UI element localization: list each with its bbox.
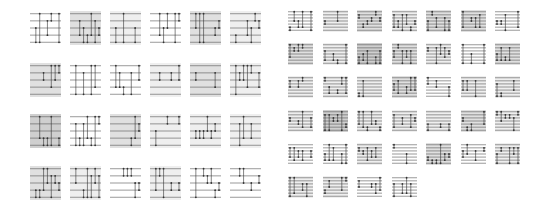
circuit-diagram-icon	[495, 110, 520, 132]
circuit-diagram-icon	[190, 11, 221, 45]
circuit-thumbnail	[461, 110, 486, 132]
circuit-diagram-icon	[230, 166, 261, 200]
circuit-diagram-icon	[392, 110, 417, 132]
circuit-thumbnail	[392, 176, 417, 198]
circuit-diagram-icon	[426, 43, 451, 65]
circuit-diagram-icon	[357, 10, 382, 32]
circuit-diagram-icon	[461, 143, 486, 165]
circuit-thumbnail	[461, 143, 486, 165]
circuit-thumbnail	[190, 166, 221, 200]
circuit-thumbnail	[323, 43, 348, 65]
circuit-diagram-icon	[110, 63, 141, 97]
circuit-thumbnail	[190, 63, 221, 97]
circuit-diagram-icon	[323, 76, 348, 98]
circuit-diagram-icon	[30, 63, 61, 97]
circuit-thumbnail	[357, 10, 382, 32]
circuit-diagram-icon	[70, 63, 101, 97]
circuit-diagram-icon	[150, 11, 181, 45]
circuit-diagram-icon	[426, 143, 451, 165]
circuit-thumbnail	[426, 110, 451, 132]
circuit-diagram-icon	[70, 114, 101, 148]
circuit-diagram-icon	[288, 176, 313, 198]
circuit-diagram-icon	[323, 110, 348, 132]
circuit-thumbnail	[495, 43, 520, 65]
circuit-thumbnail	[426, 43, 451, 65]
circuit-thumbnail	[150, 11, 181, 45]
circuit-diagram-icon	[288, 10, 313, 32]
circuit-thumbnail	[30, 11, 61, 45]
circuit-diagram-icon	[190, 166, 221, 200]
circuit-diagram-icon	[30, 11, 61, 45]
circuit-diagram-icon	[190, 114, 221, 148]
circuit-thumbnail	[110, 63, 141, 97]
circuit-thumbnail	[357, 43, 382, 65]
circuit-thumbnail	[230, 63, 261, 97]
circuit-diagram-icon	[288, 76, 313, 98]
circuit-thumbnail	[426, 143, 451, 165]
circuit-thumbnail	[150, 63, 181, 97]
circuit-thumbnail	[495, 10, 520, 32]
circuit-thumbnail	[323, 110, 348, 132]
circuit-diagram-icon	[323, 43, 348, 65]
circuit-diagram-icon	[110, 11, 141, 45]
circuit-diagram-icon	[323, 10, 348, 32]
circuit-thumbnail	[426, 76, 451, 98]
circuit-thumbnail	[288, 76, 313, 98]
circuit-diagram-icon	[357, 43, 382, 65]
circuit-thumbnail	[150, 166, 181, 200]
circuit-thumbnail	[288, 43, 313, 65]
circuit-thumbnail	[392, 110, 417, 132]
circuit-diagram-icon	[110, 166, 141, 200]
circuit-diagram-icon	[357, 176, 382, 198]
circuit-thumbnail	[461, 10, 486, 32]
circuit-diagram-icon	[288, 110, 313, 132]
circuit-thumbnail	[110, 114, 141, 148]
circuit-diagram-icon	[392, 43, 417, 65]
circuit-diagram-icon	[150, 63, 181, 97]
circuit-diagram-icon	[357, 76, 382, 98]
circuit-diagram-icon	[110, 114, 141, 148]
circuit-diagram-icon	[357, 110, 382, 132]
circuit-thumbnail	[230, 114, 261, 148]
circuit-diagram-icon	[230, 63, 261, 97]
circuit-diagram-icon	[495, 43, 520, 65]
circuit-diagram-icon	[288, 143, 313, 165]
circuit-thumbnail	[110, 166, 141, 200]
circuit-thumbnail	[392, 10, 417, 32]
circuit-diagram-icon	[426, 10, 451, 32]
circuit-thumbnail	[323, 76, 348, 98]
circuit-thumbnail	[323, 143, 348, 165]
circuit-diagram-icon	[461, 110, 486, 132]
circuit-thumbnail	[30, 166, 61, 200]
circuit-diagram-icon	[461, 76, 486, 98]
circuit-thumbnail	[230, 166, 261, 200]
circuit-thumbnail	[190, 114, 221, 148]
circuit-diagram-icon	[392, 76, 417, 98]
circuit-thumbnail	[288, 10, 313, 32]
circuit-diagram-icon	[230, 11, 261, 45]
circuit-thumbnail	[150, 114, 181, 148]
circuit-thumbnail	[70, 114, 101, 148]
circuit-thumbnail	[70, 63, 101, 97]
circuit-diagram-icon	[323, 143, 348, 165]
circuit-diagram-icon	[288, 43, 313, 65]
circuit-diagram-icon	[461, 43, 486, 65]
circuit-diagram-icon	[495, 143, 520, 165]
circuit-thumbnail	[357, 110, 382, 132]
circuit-diagram-icon	[30, 166, 61, 200]
circuit-thumbnail	[70, 166, 101, 200]
circuit-thumbnail	[495, 143, 520, 165]
circuit-thumbnail	[495, 110, 520, 132]
circuit-thumbnail	[461, 43, 486, 65]
circuit-diagram-icon	[190, 63, 221, 97]
circuit-diagram-icon	[323, 176, 348, 198]
circuit-thumbnail	[461, 76, 486, 98]
circuit-thumbnail	[323, 10, 348, 32]
circuit-diagram-icon	[150, 114, 181, 148]
circuit-thumbnail	[110, 11, 141, 45]
circuit-diagram-icon	[426, 76, 451, 98]
circuit-thumbnail	[357, 76, 382, 98]
circuit-thumbnail	[190, 11, 221, 45]
circuit-diagram-icon	[357, 143, 382, 165]
circuit-thumbnail	[392, 76, 417, 98]
